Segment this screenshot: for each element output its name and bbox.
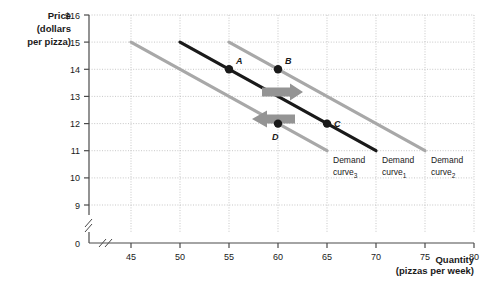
data-point-a-label: A bbox=[235, 56, 243, 66]
data-point-c[interactable] bbox=[323, 119, 331, 127]
demand-curve-1-label: Demand curve1 bbox=[382, 155, 414, 179]
data-point-d[interactable] bbox=[274, 119, 282, 127]
demand-curve-1-label-line2: curve1 bbox=[382, 167, 407, 179]
demand-curve-1-label-subscript: 1 bbox=[403, 172, 407, 179]
y-axis-title-line1: Price bbox=[48, 10, 71, 21]
x-tick-label-60: 60 bbox=[273, 252, 283, 262]
demand-curve-2-label: Demand curve2 bbox=[431, 155, 463, 179]
x-axis-title: (pizzas per week) Quantity bbox=[396, 254, 475, 277]
demand-curve-2-label-line2: curve2 bbox=[431, 167, 456, 179]
demand-curve-3-label-line2: curve3 bbox=[333, 167, 358, 179]
x-tick-label-65: 65 bbox=[322, 252, 332, 262]
demand-curve-1-label-word: curve bbox=[382, 167, 403, 177]
demand-curve-2-label-line1: Demand bbox=[431, 155, 463, 165]
y-tick-label-10: 10 bbox=[70, 173, 80, 183]
demand-curve-2-label-word: curve bbox=[431, 167, 452, 177]
x-tick-label-75: 75 bbox=[420, 252, 430, 262]
data-point-b-label: B bbox=[285, 56, 292, 66]
x-tick-label-45: 45 bbox=[126, 252, 136, 262]
y-tick-label-9: 9 bbox=[75, 201, 80, 211]
data-point-d-label: D bbox=[272, 132, 279, 142]
y-tick-label-13: 13 bbox=[70, 92, 80, 102]
y-tick-label-11: 11 bbox=[71, 146, 80, 156]
data-point-c-label: C bbox=[334, 119, 341, 129]
y-axis-title-line2: (dollars bbox=[37, 23, 71, 34]
demand-curve-3-label: Demand curve3 bbox=[333, 155, 365, 179]
x-axis-title-sub: (pizzas per week) bbox=[396, 265, 474, 276]
demand-curve-2-label-subscript: 2 bbox=[452, 172, 456, 179]
y-tick-label-14: 14 bbox=[70, 65, 80, 75]
x-tick-label-70: 70 bbox=[371, 252, 381, 262]
demand-curve-3-label-subscript: 3 bbox=[354, 172, 358, 179]
demand-curve-chart: $16 15 14 13 12 11 10 9 0 45 50 55 60 65… bbox=[0, 0, 490, 284]
demand-curve-3-label-word: curve bbox=[333, 167, 354, 177]
data-point-b[interactable] bbox=[274, 65, 282, 73]
x-tick-label-50: 50 bbox=[175, 252, 185, 262]
demand-curve-3-label-line1: Demand bbox=[333, 155, 365, 165]
y-axis-title-line3: per pizza) bbox=[27, 36, 71, 47]
y-tick-marks bbox=[84, 15, 89, 205]
x-axis-title-main: Quantity bbox=[435, 254, 474, 265]
demand-curve-1-label-line1: Demand bbox=[382, 155, 414, 165]
data-point-a[interactable] bbox=[225, 65, 233, 73]
x-tick-labels: 45 50 55 60 65 70 75 80 bbox=[126, 252, 479, 262]
x-tick-label-55: 55 bbox=[224, 252, 234, 262]
chart-svg: $16 15 14 13 12 11 10 9 0 45 50 55 60 65… bbox=[0, 0, 490, 284]
y-axis-title: Price (dollars per pizza) bbox=[27, 10, 71, 47]
x-tick-marks bbox=[131, 243, 474, 248]
y-tick-label-0: 0 bbox=[75, 239, 80, 249]
y-tick-label-15: 15 bbox=[70, 38, 80, 48]
y-tick-label-12: 12 bbox=[70, 119, 80, 129]
